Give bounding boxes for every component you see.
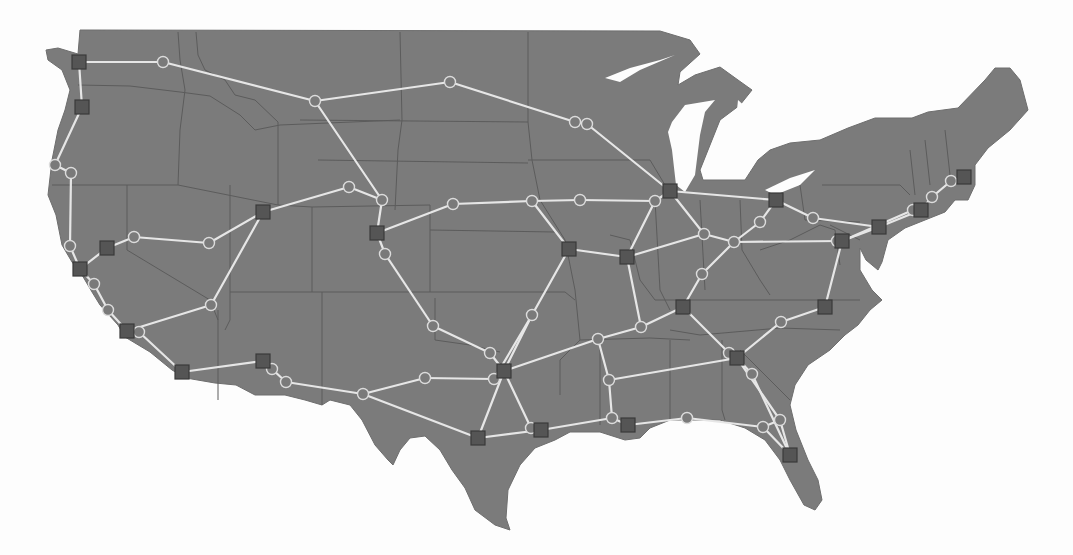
circle-node-icon[interactable] [344,182,355,193]
square-node-icon[interactable] [769,193,783,207]
network-link [580,200,655,201]
square-node-icon[interactable] [534,423,548,437]
circle-node-icon[interactable] [310,96,321,107]
circle-node-icon[interactable] [607,413,618,424]
square-node-icon[interactable] [75,100,89,114]
square-node-icon[interactable] [621,418,635,432]
square-node-icon[interactable] [620,250,634,264]
circle-node-icon[interactable] [570,117,581,128]
circle-node-icon[interactable] [946,176,957,187]
square-node-icon[interactable] [957,170,971,184]
circle-node-icon[interactable] [380,249,391,260]
circle-node-icon[interactable] [697,269,708,280]
circle-node-icon[interactable] [650,196,661,207]
circle-node-icon[interactable] [575,195,586,206]
circle-node-icon[interactable] [747,369,758,380]
square-node-icon[interactable] [370,226,384,240]
circle-node-icon[interactable] [420,373,431,384]
circle-node-icon[interactable] [206,300,217,311]
square-node-icon[interactable] [663,184,677,198]
square-node-icon[interactable] [471,431,485,445]
square-node-icon[interactable] [175,365,189,379]
square-node-icon[interactable] [783,448,797,462]
square-node-icon[interactable] [256,354,270,368]
circle-node-icon[interactable] [729,237,740,248]
square-node-icon[interactable] [562,242,576,256]
square-node-icon[interactable] [256,205,270,219]
square-node-icon[interactable] [72,55,86,69]
network-link [70,173,71,246]
square-node-icon[interactable] [730,351,744,365]
square-node-icon[interactable] [914,203,928,217]
circle-node-icon[interactable] [927,192,938,203]
circle-node-icon[interactable] [445,77,456,88]
circle-node-icon[interactable] [204,238,215,249]
circle-node-icon[interactable] [755,217,766,228]
network-link [734,241,842,242]
circle-node-icon[interactable] [604,375,615,386]
network-link [425,378,494,379]
circle-node-icon[interactable] [593,334,604,345]
square-node-icon[interactable] [73,262,87,276]
circle-node-icon[interactable] [776,317,787,328]
circle-node-icon[interactable] [636,322,647,333]
circle-node-icon[interactable] [485,348,496,359]
circle-node-icon[interactable] [758,422,769,433]
circle-node-icon[interactable] [103,305,114,316]
circle-node-icon[interactable] [775,415,786,426]
square-node-icon[interactable] [497,364,511,378]
circle-node-icon[interactable] [582,119,593,130]
square-node-icon[interactable] [100,241,114,255]
land-layer [46,30,1028,530]
circle-node-icon[interactable] [66,168,77,179]
circle-node-icon[interactable] [527,196,538,207]
circle-node-icon[interactable] [129,232,140,243]
lake-huron [735,100,760,145]
circle-node-icon[interactable] [358,389,369,400]
square-node-icon[interactable] [835,234,849,248]
square-node-icon[interactable] [120,324,134,338]
network-link [532,200,580,201]
us-landmass [46,30,1028,530]
circle-node-icon[interactable] [281,377,292,388]
circle-node-icon[interactable] [377,195,388,206]
square-node-icon[interactable] [872,220,886,234]
circle-node-icon[interactable] [699,229,710,240]
circle-node-icon[interactable] [808,213,819,224]
circle-node-icon[interactable] [448,199,459,210]
circle-node-icon[interactable] [158,57,169,68]
network-map [0,0,1073,555]
square-node-icon[interactable] [818,300,832,314]
circle-node-icon[interactable] [682,413,693,424]
circle-node-icon[interactable] [428,321,439,332]
circle-node-icon[interactable] [527,310,538,321]
circle-node-icon[interactable] [50,160,61,171]
us-map-svg [0,0,1073,555]
circle-node-icon[interactable] [89,279,100,290]
circle-node-icon[interactable] [134,327,145,338]
square-node-icon[interactable] [676,300,690,314]
circle-node-icon[interactable] [65,241,76,252]
